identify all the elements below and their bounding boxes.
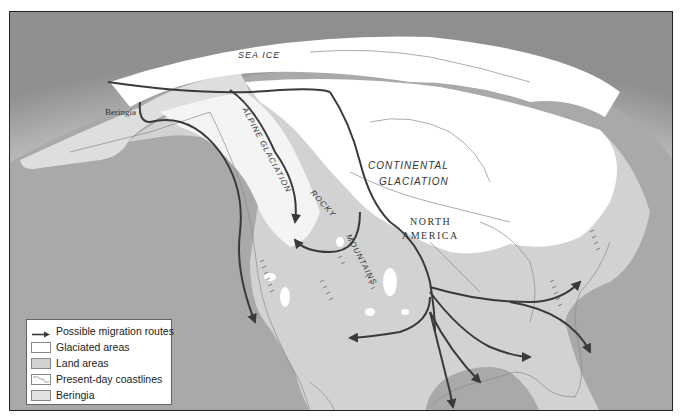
legend-item-beringia: Beringia [31,387,167,403]
coastline-swatch-icon [31,374,51,385]
legend-label: Glaciated areas [56,341,130,353]
legend-item-glaciated: Glaciated areas [31,339,167,355]
glaciated-swatch-icon [31,342,51,353]
label-america: AMERICA [402,230,459,241]
label-continental-line2: GLACIATION [379,176,449,187]
legend-item-coastlines: Present-day coastlines [31,371,167,387]
legend-label: Land areas [56,357,109,369]
land-swatch-icon [31,358,51,369]
beringia-swatch-icon [31,390,51,401]
arrow-icon [31,326,51,337]
legend-item-land: Land areas [31,355,167,371]
label-north: NORTH [410,216,451,227]
legend-item-migration-routes: Possible migration routes [31,323,167,339]
legend-label: Beringia [56,389,95,401]
map-frame: SEA ICE Beringia ALPINE GLACIATION CONTI… [9,11,673,411]
legend-label: Possible migration routes [56,325,174,337]
legend: Possible migration routes Glaciated area… [26,319,172,405]
label-sea-ice: SEA ICE [238,50,280,60]
label-beringia: Beringia [105,107,136,117]
label-continental-line1: CONTINENTAL [368,160,449,171]
legend-label: Present-day coastlines [56,373,162,385]
